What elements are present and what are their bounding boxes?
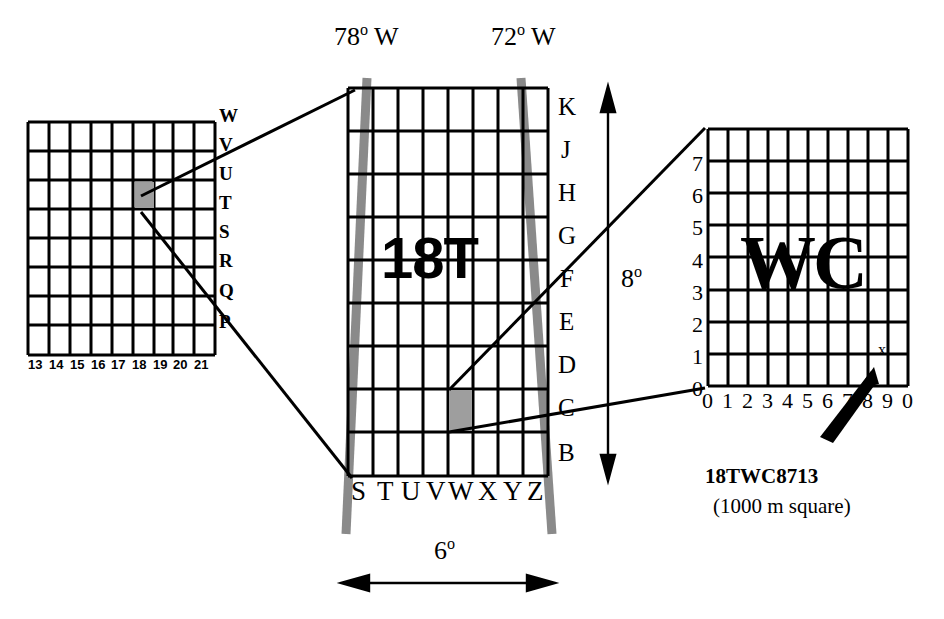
center-col-label-U: U [401,478,421,505]
connector-right-bottom [449,388,705,432]
right-y-label-2: 2 [692,314,703,336]
center-row-label-E: E [559,309,574,334]
right-y-label-3: 3 [692,282,703,304]
center-col-label-Y: Y [503,478,523,505]
figure-canvas: 13 14 15 16 17 18 19 20 21 W V U T S R Q… [0,0,944,619]
left-col-label-16: 16 [91,358,105,371]
meridian-label-78w: 78o W [334,22,399,50]
degree-symbol-78: o [360,21,368,38]
grid-reference-callout: 18TWC8713 [705,466,818,487]
left-col-label-19: 19 [153,358,167,371]
width-dimension-label: 6o [434,536,455,564]
center-row-label-G: G [558,223,576,248]
center-col-label-W: W [448,478,473,505]
center-row-label-C: C [558,395,575,420]
right-x-label-0a: 0 [702,390,713,412]
center-col-label-V: V [426,478,446,505]
center-col-label-S: S [351,478,366,505]
left-row-label-V: V [219,135,233,154]
diagram-svg [0,0,944,619]
left-grid [28,122,215,355]
right-y-label-7: 7 [692,153,703,175]
right-x-label-8: 8 [862,390,873,412]
right-x-label-6: 6 [822,390,833,412]
zone-label-18T: 18T [381,229,478,287]
center-row-label-B: B [558,440,575,465]
center-col-label-X: X [478,478,498,505]
left-row-label-R: R [219,251,233,270]
left-row-label-S: S [219,222,230,241]
right-y-label-4: 4 [692,250,703,272]
left-row-label-Q: Q [219,281,234,300]
point-marker-x: x [878,342,886,358]
right-x-label-3: 3 [762,390,773,412]
left-row-label-P: P [219,312,231,331]
right-x-label-4: 4 [782,390,793,412]
right-y-label-5: 5 [692,217,703,239]
right-y-label-6: 6 [692,185,703,207]
left-col-label-15: 15 [70,358,84,371]
height-dimension-arrow [601,86,615,481]
degree-symbol-6: o [447,535,455,552]
right-x-label-7: 7 [842,390,853,412]
left-col-label-17: 17 [111,358,125,371]
square-label-WC: WC [740,224,865,300]
left-row-label-W: W [219,106,238,125]
meridian-label-72w: 72o W [491,22,556,50]
right-x-label-1: 1 [722,390,733,412]
center-row-label-J: J [561,137,571,162]
degree-symbol-72: o [517,21,525,38]
center-row-label-F: F [560,266,574,291]
left-col-label-14: 14 [49,358,63,371]
right-y-label-1: 1 [692,346,703,368]
center-row-label-H: H [558,180,576,205]
left-col-label-18: 18 [132,358,146,371]
left-row-label-T: T [219,193,232,212]
center-row-label-K: K [558,94,576,119]
left-col-label-21: 21 [194,358,208,371]
right-x-label-5: 5 [802,390,813,412]
grid-reference-note: (1000 m square) [713,496,851,517]
right-x-label-9: 9 [882,390,893,412]
center-row-label-D: D [558,352,576,377]
center-col-label-Z: Z [527,478,544,505]
right-x-label-2: 2 [742,390,753,412]
degree-symbol-8: o [634,263,642,280]
width-dimension-arrow [341,575,555,591]
height-dimension-label: 8o [621,264,642,292]
center-col-label-T: T [377,478,394,505]
right-x-label-0b: 0 [902,390,913,412]
left-col-label-20: 20 [173,358,187,371]
left-row-label-U: U [219,164,233,183]
left-col-label-13: 13 [28,358,42,371]
center-grid-highlight-cell [449,390,472,431]
